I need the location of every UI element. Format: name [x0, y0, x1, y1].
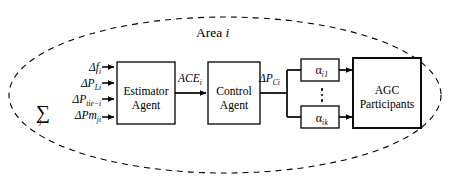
control-agent-label-line1: Control	[209, 85, 259, 99]
ace-signal-label: ACEi	[178, 72, 202, 84]
input-label-sum-delta-pm-base: ΔPm	[75, 109, 97, 121]
delta-pc-signal-base: ΔP	[259, 72, 273, 84]
input-label-delta-f-sub: i	[99, 67, 101, 76]
ellipsis-dot-1	[321, 88, 323, 90]
agc-participants-label-line1: AGC	[352, 84, 422, 98]
agc-participants-label: AGC Participants	[352, 84, 422, 113]
summation-operator: ∑ j	[33, 103, 53, 126]
input-arrows	[102, 67, 114, 117]
input-label-delta-p-l-base: ΔP	[81, 77, 95, 89]
delta-pc-signal-sub: Ci	[273, 78, 280, 87]
estimator-agent-label: Estimator Agent	[117, 85, 175, 114]
ellipsis-dot-2	[321, 94, 323, 96]
input-label-delta-p-l: ΔPLi	[33, 77, 101, 89]
delta-pc-signal-label: ΔPCi	[259, 72, 280, 84]
area-title-text: Area	[196, 25, 222, 40]
agc-area-block-diagram: Area i Δfi ΔPLi ΔPtie−i ΔPmji ∑ j Estima…	[0, 0, 451, 186]
alpha-i1-sub: i1	[322, 70, 329, 79]
ellipsis-dot-3	[321, 99, 323, 101]
input-label-sum-delta-pm-sub: ji	[97, 115, 101, 124]
estimator-agent-label-line2: Agent	[117, 99, 175, 113]
input-label-delta-f: Δfi	[38, 61, 101, 73]
input-label-delta-p-tie-base: ΔP	[72, 93, 86, 105]
control-agent-label-line2: Agent	[209, 99, 259, 113]
alpha-i1-base: α	[315, 63, 321, 77]
ace-signal-base: ACE	[178, 72, 200, 84]
alpha-ik-sub: ik	[322, 118, 328, 127]
input-label-delta-p-tie-sub: tie−i	[86, 99, 101, 108]
area-title: Area i	[196, 26, 229, 40]
agc-participants-label-line2: Participants	[352, 98, 422, 112]
control-agent-label: Control Agent	[209, 85, 259, 114]
input-label-delta-p-l-sub: Li	[95, 83, 101, 92]
alpha-ik-label: αik	[303, 111, 341, 126]
vertical-ellipsis-icon	[313, 85, 331, 105]
area-title-index: i	[226, 25, 230, 40]
estimator-agent-label-line1: Estimator	[117, 85, 175, 99]
sigma-icon: ∑	[33, 103, 53, 121]
ace-signal-sub: i	[200, 78, 202, 87]
alpha-i1-label: αi1	[303, 63, 341, 78]
input-label-delta-f-base: Δf	[89, 61, 99, 73]
